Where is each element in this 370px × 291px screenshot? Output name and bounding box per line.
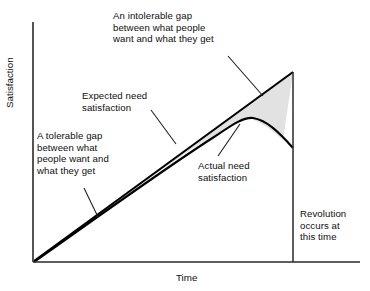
annotation-expected-need: Expected need satisfaction xyxy=(82,90,147,113)
annotation-actual-need: Actual need satisfaction xyxy=(198,160,250,183)
leader-line-tolerable-gap xyxy=(84,188,98,217)
chart-container: An intolerable gap between what people w… xyxy=(0,0,370,291)
leader-line-intolerable-gap xyxy=(228,56,263,96)
y-axis-title: Satisfaction xyxy=(4,57,15,108)
leader-line-expected-need xyxy=(151,110,176,144)
annotation-intolerable-gap: An intolerable gap between what people w… xyxy=(113,10,214,45)
annotation-revolution: Revolution occurs at this time xyxy=(300,208,346,243)
annotation-tolerable-gap: A tolerable gap between what people want… xyxy=(37,130,109,176)
x-axis-title: Time xyxy=(176,272,197,283)
